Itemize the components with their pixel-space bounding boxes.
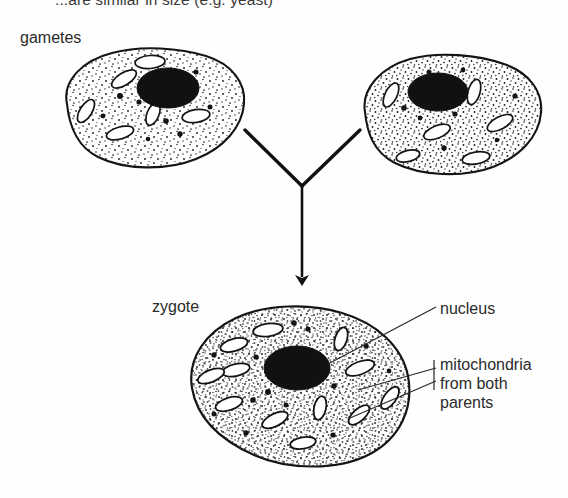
diagram-canvas [0,0,568,498]
arrow-branch-right [302,130,360,186]
label-gametes: gametes [20,28,81,47]
fertilization-diagram: ...are similar in size (e.g. yeast) [0,0,568,498]
label-mitochondria-line-1: mitochondria [440,355,532,374]
label-nucleus: nucleus [440,299,495,318]
arrow-branch-left [245,130,302,186]
label-mitochondria-line-3: parents [440,393,532,412]
gamete-left-nucleus [137,68,199,108]
fusion-arrow [245,130,360,276]
label-zygote: zygote [152,297,199,316]
cell-gamete-right [358,50,550,182]
zygote-nucleus [264,346,330,390]
label-mitochondria-line-2: from both [440,374,532,393]
cell-zygote [185,300,417,475]
cell-gamete-left [60,44,255,176]
label-mitochondria: mitochondria from both parents [440,355,532,412]
gamete-right-nucleus [408,73,468,111]
